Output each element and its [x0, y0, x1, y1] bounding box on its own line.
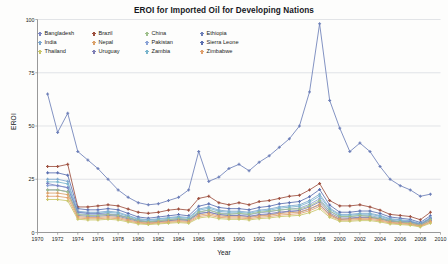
legend-marker-icon — [38, 41, 42, 45]
legend-label: Zimbabwe — [207, 47, 233, 56]
x-tick-label: 1996 — [294, 236, 306, 242]
x-tick-label: 1976 — [92, 236, 104, 242]
x-tick-label: 1982 — [152, 236, 164, 242]
x-axis-label: Year — [0, 249, 448, 256]
x-tick-label: 1998 — [314, 236, 326, 242]
legend-label: Bangladesh — [45, 29, 75, 38]
x-tick-label: 1980 — [132, 236, 144, 242]
legend-marker-icon — [200, 32, 204, 36]
x-tick-label: 2002 — [354, 236, 366, 242]
legend-item-sierra-leone[interactable]: Sierra Leone — [200, 38, 262, 47]
legend-label: Brazil — [99, 29, 113, 38]
x-tick-label: 1974 — [72, 236, 84, 242]
legend-label: Thailand — [45, 47, 66, 56]
legend-marker-icon — [92, 41, 96, 45]
x-tick-label: 1970 — [32, 236, 44, 242]
x-tick-label: 2006 — [394, 236, 406, 242]
legend-label: Sierra Leone — [207, 38, 239, 47]
legend-item-india[interactable]: India — [38, 38, 92, 47]
x-tick-label: 1984 — [173, 236, 185, 242]
legend-marker-icon — [145, 50, 149, 54]
chart-figure: EROI for Imported Oil for Developing Nat… — [0, 0, 448, 264]
x-tick-label: 1994 — [273, 236, 285, 242]
legend-label: India — [45, 38, 57, 47]
legend-item-brazil[interactable]: Brazil — [92, 29, 145, 38]
legend-marker-icon — [145, 32, 149, 36]
legend-item-china[interactable]: China — [145, 29, 200, 38]
x-tick-label: 1986 — [193, 236, 205, 242]
legend-marker-icon — [38, 32, 42, 36]
legend-marker-icon — [200, 50, 204, 54]
legend-item-thailand[interactable]: Thailand — [38, 47, 92, 56]
legend-label: Uruguay — [99, 47, 120, 56]
y-tick-label: 75 — [22, 70, 35, 76]
legend-marker-icon — [145, 41, 149, 45]
x-tick-label: 2008 — [414, 236, 426, 242]
legend-item-zambia[interactable]: Zambia — [145, 47, 200, 56]
legend-label: Zambia — [152, 47, 171, 56]
legend-label: China — [152, 29, 167, 38]
x-tick-label: 1978 — [112, 236, 124, 242]
legend-marker-icon — [200, 41, 204, 45]
x-tick-label: 1972 — [52, 236, 64, 242]
legend-item-ethiopia[interactable]: Ethiopia — [200, 29, 262, 38]
legend-item-zimbabwe[interactable]: Zimbabwe — [200, 47, 262, 56]
x-tick-label: 1988 — [213, 236, 225, 242]
legend-marker-icon — [38, 50, 42, 54]
legend-item-uruguay[interactable]: Uruguay — [92, 47, 145, 56]
legend-marker-icon — [92, 32, 96, 36]
y-tick-label: 50 — [22, 123, 35, 129]
x-tick-label: 1992 — [253, 236, 265, 242]
y-tick-label: 25 — [22, 176, 35, 182]
legend-marker-icon — [92, 50, 96, 54]
chart-legend: BangladeshBrazilChinaEthiopiaIndiaNepalP… — [38, 29, 262, 56]
x-tick-label: 2000 — [334, 236, 346, 242]
legend-item-bangladesh[interactable]: Bangladesh — [38, 29, 92, 38]
legend-item-nepal[interactable]: Nepal — [92, 38, 145, 47]
legend-label: Ethiopia — [207, 29, 227, 38]
x-tick-label: 1990 — [233, 236, 245, 242]
y-axis-label: EROI — [10, 100, 17, 144]
x-tick-label: 2010 — [435, 236, 447, 242]
y-tick-label: 100 — [22, 17, 35, 23]
x-tick-label: 2004 — [374, 236, 386, 242]
y-tick-label: 0 — [22, 230, 35, 236]
legend-item-pakistan[interactable]: Pakistan — [145, 38, 200, 47]
legend-label: Pakistan — [152, 38, 173, 47]
legend-label: Nepal — [99, 38, 114, 47]
